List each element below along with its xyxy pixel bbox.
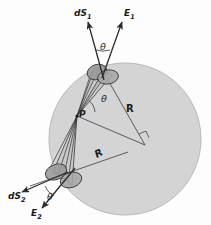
label-point-p: P [79, 110, 86, 119]
label-theta-top: θ [100, 42, 106, 52]
label-E2: E2 [31, 209, 42, 220]
diagram-canvas [0, 0, 211, 225]
label-theta-center: θ [101, 94, 107, 104]
label-theta-bottom: θ [47, 192, 53, 202]
label-dS1: dS1 [74, 9, 91, 20]
label-radius-R: R [126, 104, 134, 114]
physics-diagram-figure: dS1 E1 θ θ P R R dS2 θ E2 [0, 0, 211, 225]
label-dS2: dS2 [8, 192, 25, 203]
label-E1: E1 [124, 9, 135, 20]
